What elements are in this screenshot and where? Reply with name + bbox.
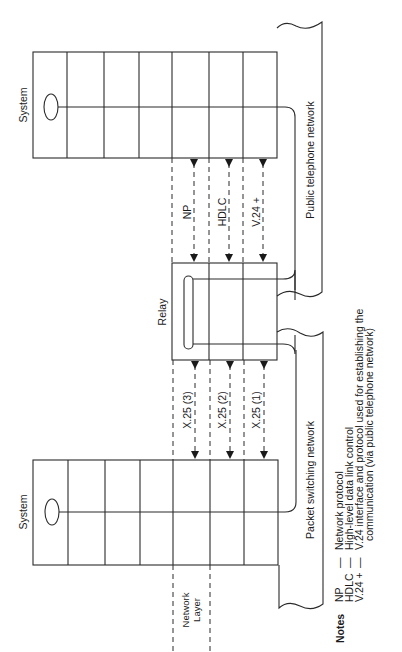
- relay-label: Relay: [156, 298, 168, 326]
- protocol-relay-diagram: System System Relay Public telephone net…: [0, 0, 402, 652]
- protocol-label-x25-2: X.25 (2): [216, 391, 228, 428]
- note-dash-v24: —: [353, 557, 365, 568]
- note-text-v24-continuation: communication (via public telephone netw…: [363, 328, 375, 541]
- network-layer-label-line2: Layer: [191, 598, 202, 622]
- protocol-label-np: NP: [181, 205, 193, 220]
- relay-stack: [172, 263, 295, 360]
- protocol-label-x25-3: X.25 (3): [181, 391, 193, 428]
- note-abbr-v24: V.24 +: [353, 572, 365, 602]
- bottom-system-endpoint-icon: [45, 499, 59, 525]
- notes-title: Notes: [334, 614, 346, 643]
- relay-bridge-icon: [184, 276, 193, 349]
- protocol-label-hdlc: HDLC: [216, 197, 228, 226]
- top-system-endpoint-icon: [44, 94, 58, 120]
- protocol-label-v24: V.24 +: [250, 197, 262, 227]
- protocol-label-x25-1: X.25 (1): [250, 391, 262, 428]
- top-system-stack: [33, 52, 295, 290]
- top-system-label: System: [17, 87, 29, 122]
- notes-block: Notes NP HDLC V.24 + — — — Network proto…: [333, 309, 375, 643]
- packet-switching-network-strip: [277, 329, 323, 609]
- bottom-system-label: System: [17, 494, 29, 529]
- packet-switching-network-label: Packet switching network: [304, 420, 316, 539]
- network-layer-label-line1: Network: [180, 592, 191, 627]
- bottom-system-stack: [33, 350, 296, 565]
- public-telephone-network-label: Public telephone network: [304, 101, 316, 219]
